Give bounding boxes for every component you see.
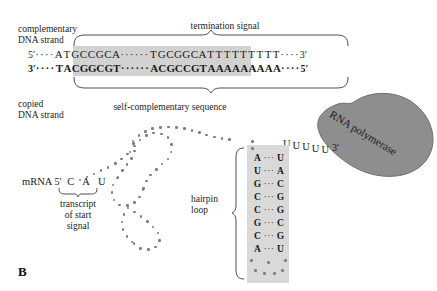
hairpin-base-right: U (276, 243, 286, 256)
hairpin-loop-brace (231, 147, 246, 280)
top-strand-palindrome-left: ATGCCGCA (55, 48, 121, 60)
sequence-base: A (198, 48, 206, 60)
rna-backbone-dot (254, 269, 257, 272)
rna-backbone-dot (251, 140, 254, 143)
sequence-base: C (72, 62, 80, 74)
sequence-base: C (79, 48, 87, 60)
bottom-strand-5-prime: 5′ (301, 63, 309, 74)
sequence-base: G (174, 48, 182, 60)
hairpin-base-right: C (276, 217, 286, 230)
mrna-backbone-dot (100, 169, 103, 172)
hydrogen-bond-dots: ··· (263, 217, 276, 230)
mrna-backbone-dot (161, 163, 164, 166)
figure-panel-b: complementary DNA strand termination sig… (0, 0, 437, 291)
hairpin-base-pair: C···G (248, 230, 290, 243)
mrna-backbone-dot (152, 132, 155, 135)
sequence-base: T (149, 48, 157, 60)
rna-backbone-dot (273, 272, 276, 275)
hairpin-base-right: G (276, 230, 286, 243)
hairpin-base-right: U (276, 152, 286, 165)
dna-bottom-strand: 3′····TACGGCGT······ACGCCGTAAAAAAAAA····… (28, 62, 308, 74)
hairpin-base-left: C (253, 230, 263, 243)
mrna-u-base: U (293, 140, 303, 151)
sequence-base: C (158, 62, 166, 74)
hydrogen-bond-dots: ··· (263, 191, 276, 204)
rna-backbone-dot (284, 259, 287, 262)
sequence-base: G (88, 62, 96, 74)
mrna-backbone-dot (167, 136, 170, 139)
mrna-backbone-dot (120, 158, 123, 161)
hairpin-base-pair: G···C (248, 217, 290, 230)
mrna-backbone-dot (228, 138, 231, 141)
mrna-backbone-dot (107, 166, 110, 169)
dna-top-strand: 5′····ATGCCGCA······TGCGGCATTTTTTTTT····… (28, 48, 307, 60)
sequence-base: G (166, 62, 174, 74)
bottom-strand-spacer-dots: ······ (121, 62, 150, 74)
sequence-base: G (191, 62, 199, 74)
sequence-base: A (256, 62, 264, 74)
mrna-backbone-dot (142, 189, 145, 192)
mrna-backbone-dot (198, 131, 201, 134)
transcript-of-start-signal-label: transcript of start signal (33, 199, 123, 232)
mrna-backbone-dot (167, 158, 170, 161)
hairpin-loop-label: hairpin loop (191, 194, 218, 216)
hydrogen-bond-dots: ··· (263, 178, 276, 191)
mrna-backbone-dot (126, 163, 129, 166)
sequence-base: A (55, 48, 63, 60)
bottom-strand-palindrome-right: ACGCCGTA (150, 62, 216, 74)
mrna-backbone-dot (149, 174, 152, 177)
mrna-backbone-dot (139, 247, 142, 250)
hairpin-base-right: C (276, 178, 286, 191)
sequence-base: T (256, 48, 264, 60)
sequence-base: C (104, 48, 112, 60)
mrna-backbone-dot (133, 211, 136, 214)
hairpin-base-pair: A···U (248, 152, 290, 165)
hairpin-base-left: U (253, 165, 263, 178)
rna-backbone-dot (267, 261, 270, 264)
mrna-backbone-dot (133, 145, 136, 148)
top-strand-lead-dots: ···· (35, 48, 54, 60)
sequence-base: A (216, 62, 224, 74)
mrna-backbone-dot (132, 140, 135, 143)
sequence-base: T (264, 48, 272, 60)
hairpin-base-left: G (253, 178, 263, 191)
sequence-base: T (239, 48, 247, 60)
mrna-start-bases: C A U (67, 176, 108, 187)
hairpin-base-right: G (276, 204, 286, 217)
mrna-backbone-dot (155, 168, 158, 171)
hairpin-stem-top-dots (247, 138, 291, 152)
hairpin-base-right: G (276, 191, 286, 204)
hairpin-base-pair: G···C (248, 178, 290, 191)
termination-signal-label: termination signal (160, 21, 290, 32)
mrna-backbone-dot (130, 157, 133, 160)
bottom-strand-3-prime: 3′ (28, 63, 36, 74)
mrna-backbone-dot (145, 134, 148, 137)
hairpin-base-pair: C···G (248, 204, 290, 217)
mrna-backbone-dot (117, 176, 120, 179)
hairpin-base-left: A (253, 243, 263, 256)
sequence-base: A (224, 62, 232, 74)
hairpin-base-pair: U···A (248, 165, 290, 178)
mrna-backbone-dot (170, 151, 173, 154)
mrna-backbone-dot (145, 180, 148, 183)
mrna-backbone-dot (132, 142, 135, 145)
mrna-3-prime: 3′ (332, 142, 339, 153)
mrna-backbone-dot (138, 134, 141, 137)
sequence-base: A (150, 62, 158, 74)
mrna-u-base: U (312, 143, 322, 154)
sequence-base: A (240, 62, 248, 74)
mrna-backbone-dot (138, 196, 141, 199)
mrna-backbone-dot (221, 137, 224, 140)
mrna-backbone-dot (144, 130, 147, 133)
sequence-base: C (166, 48, 174, 60)
hydrogen-bond-dots: ··· (263, 230, 276, 243)
mrna-backbone-dot (160, 133, 163, 136)
copied-dna-strand-label: copied DNA strand (18, 99, 64, 121)
mrna-backbone-dot (183, 127, 186, 130)
sequence-base: G (182, 48, 190, 60)
sequence-base: A (63, 62, 71, 74)
mrna-5-prime-start: mRNA 5′ C A U (22, 176, 108, 187)
mrna-backbone-dot (147, 248, 150, 251)
mrna-backbone-dot (111, 191, 114, 194)
mrna-backbone-dot (139, 139, 142, 142)
